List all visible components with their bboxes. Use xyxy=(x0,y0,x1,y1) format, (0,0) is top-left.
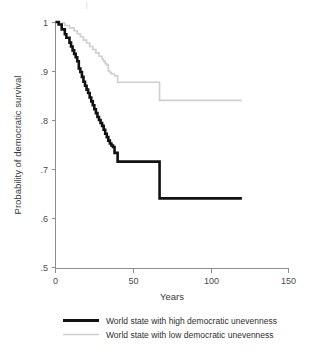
y-tick-label-08: .8 xyxy=(40,116,48,126)
y-tick-label-1: 1 xyxy=(43,18,48,28)
x-axis-title: Years xyxy=(160,291,184,302)
legend-label-high: World state with high democratic unevenn… xyxy=(106,316,277,326)
x-tick-label-100: 100 xyxy=(204,276,219,286)
x-tick-label-150: 150 xyxy=(281,276,296,286)
y-tick-label-09: .9 xyxy=(40,67,48,77)
scan-artifact xyxy=(86,2,87,9)
y-tick-label-07: .7 xyxy=(40,165,48,175)
y-tick-label-05: .5 xyxy=(40,263,48,273)
legend-label-low: World state with low democratic unevenne… xyxy=(106,330,274,340)
y-tick-label-06: .6 xyxy=(40,214,48,224)
y-axis-title: Probability of democratic survival xyxy=(12,76,23,215)
x-tick-label-0: 0 xyxy=(53,276,58,286)
survival-curve-chart: 1 .9 .8 .7 .6 .5 0 50 100 150 Years Prob… xyxy=(0,0,312,357)
chart-background xyxy=(0,0,312,357)
x-tick-label-50: 50 xyxy=(128,276,138,286)
